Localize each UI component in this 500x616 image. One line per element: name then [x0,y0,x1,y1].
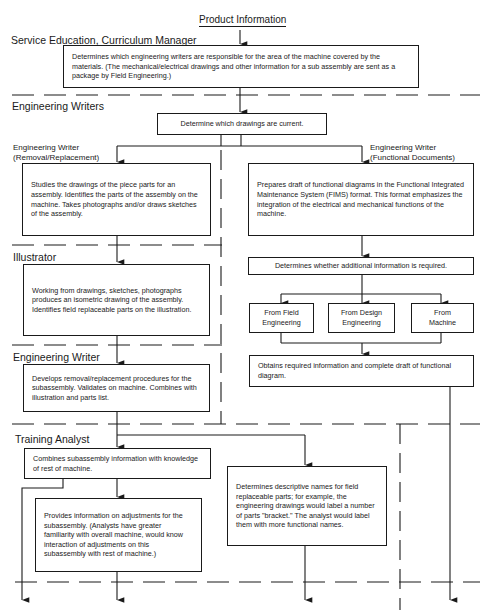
sublabel-removal-replacement: Engineering Writer (Removal/Replacement) [13,143,99,163]
box-current-drawings: Determine which drawings are current. [157,113,327,135]
box-additional-info: Determines whether additional informatio… [248,257,474,275]
box-descriptive-names: Determines descriptive names for field r… [227,466,387,546]
box-determine-writers: Determines which engineering writers are… [63,45,419,88]
box-procedures: Develops removal/replacement procedures … [23,364,210,412]
box-adjustments: Provides information on adjustments for … [35,498,202,572]
box-from-design-engineering: From Design Engineering [328,303,395,333]
box-from-field-engineering: From Field Engineering [249,303,314,333]
sublabel-functional-documents: Engineering Writer (Functional Documents… [370,143,455,163]
box-combines: Combines subassembly information with kn… [24,448,211,479]
diagram-title: Product Information [199,14,286,27]
box-isometric-drawing: Working from drawings, sketches, photogr… [23,264,210,336]
lane-label-training-analyst: Training Analyst [15,433,89,445]
box-obtains-info: Obtains required information and complet… [249,355,474,387]
lane-label-illustrator: Illustrator [13,251,56,263]
lane-label-engineering-writers: Engineering Writers [12,100,104,112]
box-studies-drawings: Studies the drawings of the piece parts … [22,163,211,236]
box-prepares-draft: Prepares draft of functional diagrams in… [248,163,474,236]
lane-label-engineering-writer: Engineering Writer [13,351,100,363]
box-from-machine: From Machine [411,303,474,333]
